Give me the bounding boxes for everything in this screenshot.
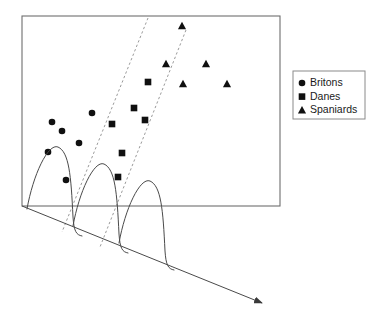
data-point-danes-3 xyxy=(142,117,149,124)
legend-label-danes: Danes xyxy=(310,90,340,102)
data-point-britons-4 xyxy=(63,177,70,184)
data-point-britons-2 xyxy=(76,140,83,147)
discriminant-axis xyxy=(22,206,262,303)
plot-frame xyxy=(22,16,280,206)
plot-frame-rect xyxy=(22,16,280,206)
legend-label-britons: Britons xyxy=(310,76,343,88)
data-point-danes-5 xyxy=(115,174,122,181)
data-point-britons-3 xyxy=(89,110,96,117)
data-point-danes-2 xyxy=(131,105,138,112)
data-point-britons-5 xyxy=(49,119,56,126)
legend: BritonsDanesSpaniards xyxy=(293,71,365,119)
data-point-danes-4 xyxy=(145,79,152,86)
discriminant-projection-figure: BritonsDanesSpaniards xyxy=(0,0,379,325)
square-marker-icon xyxy=(299,93,306,100)
data-point-danes-1 xyxy=(119,150,126,157)
data-point-britons-1 xyxy=(59,128,66,135)
legend-label-spaniards: Spaniards xyxy=(310,103,357,115)
circle-marker-icon xyxy=(299,80,306,87)
data-point-danes-0 xyxy=(109,121,116,128)
projection-axis-group xyxy=(22,206,262,303)
